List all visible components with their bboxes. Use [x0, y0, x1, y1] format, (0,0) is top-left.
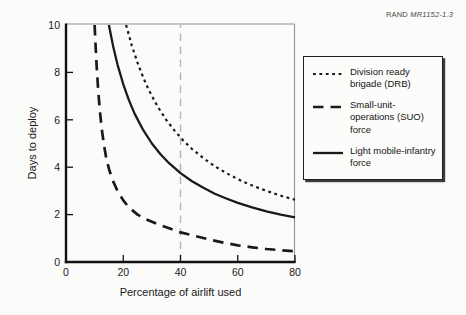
x-tick-label: 0	[63, 266, 69, 278]
curve-small-unit-operations-force	[95, 25, 295, 251]
y-tick-label: 4	[54, 161, 60, 173]
legend-item-lmi: Light mobile-infantry force	[313, 145, 437, 169]
legend-box: Division ready brigade (DRB) Small-unit-…	[303, 56, 443, 180]
legend-label-suo: Small-unit- operations (SUO) force	[350, 99, 424, 135]
y-tick-label: 6	[54, 114, 60, 126]
x-tick-label: 80	[289, 266, 301, 278]
x-axis-ticks: 020406080	[63, 255, 301, 278]
y-tick-label: 2	[54, 208, 60, 220]
y-tick-label: 10	[48, 19, 60, 31]
legend-item-drb: Division ready brigade (DRB)	[313, 66, 437, 90]
legend-label-line: Division ready	[350, 66, 411, 78]
figure-canvas: RAND MR1152-1.3 020406080 0246810 Percen…	[0, 0, 466, 315]
y-axis-title: Days to deploy	[26, 88, 38, 198]
y-axis-ticks: 0246810	[48, 19, 73, 268]
legend-label-line: Small-unit-	[350, 99, 424, 111]
legend-sample-dotted	[313, 70, 343, 78]
legend-label-line: operations (SUO)	[350, 111, 424, 123]
legend-sample-dashed	[313, 103, 343, 111]
legend-label-drb: Division ready brigade (DRB)	[350, 66, 411, 90]
legend-sample-solid	[313, 149, 343, 157]
curve-light-mobile-infantry-force	[109, 25, 295, 217]
x-axis-title: Percentage of airlift used	[66, 286, 295, 298]
x-tick-label: 20	[117, 266, 129, 278]
curve-division-ready-brigade	[126, 25, 295, 200]
legend-item-suo: Small-unit- operations (SUO) force	[313, 99, 437, 135]
legend-label-line: Light mobile-infantry	[350, 145, 436, 157]
legend-label-line: brigade (DRB)	[350, 78, 411, 90]
y-tick-label: 0	[54, 256, 60, 268]
legend-label-line: force	[350, 157, 436, 169]
legend-label-lmi: Light mobile-infantry force	[350, 145, 436, 169]
y-tick-label: 8	[54, 66, 60, 78]
x-tick-label: 60	[232, 266, 244, 278]
x-tick-label: 40	[175, 266, 187, 278]
legend-label-line: force	[350, 124, 424, 136]
